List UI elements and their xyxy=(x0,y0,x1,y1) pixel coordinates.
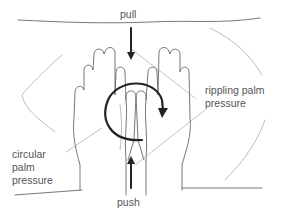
circular-label-line3: pressure xyxy=(12,174,53,186)
left-thumb xyxy=(126,91,136,160)
left-hand xyxy=(73,48,126,196)
body-contour-left xyxy=(22,55,62,132)
right-thumb xyxy=(136,91,146,160)
rippling-label-line1: rippling palm xyxy=(205,84,265,96)
circular-label-line1: circular xyxy=(12,148,46,160)
rippling-label-line2: pressure xyxy=(205,97,246,109)
circular-label-line2: palm xyxy=(12,161,35,173)
body-contour-right xyxy=(210,28,262,75)
circular-arrow-head xyxy=(158,108,168,118)
pull-label: pull xyxy=(120,8,136,20)
body-outline-top xyxy=(18,18,260,23)
body-contour-right-lower xyxy=(225,120,265,180)
body-outline-bottom-left xyxy=(15,190,82,195)
leader-rippling xyxy=(130,48,195,98)
leader-circular xyxy=(66,128,102,152)
right-hand xyxy=(145,48,190,196)
pull-arrow-head xyxy=(127,52,135,60)
push-label: push xyxy=(117,196,140,208)
